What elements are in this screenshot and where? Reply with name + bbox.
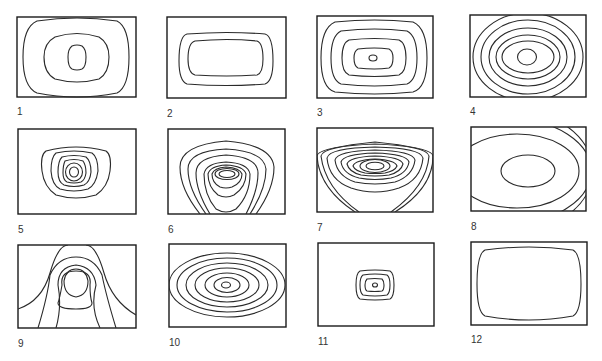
panel-label-10: 10 [169,337,180,348]
contour-plot-7 [317,128,434,213]
panel-label-11: 11 [318,336,328,347]
panel-label-5: 5 [18,224,24,235]
panel-label-3: 3 [317,107,323,118]
panel-label-7: 7 [317,222,323,233]
contour-plot-12 [471,242,588,326]
panel-4 [470,15,587,98]
panel-label-12: 12 [471,334,482,345]
contour-plot-10 [169,244,287,328]
contour-plot-1 [17,17,137,98]
panel-12 [471,242,588,326]
panel-label-9: 9 [18,338,24,349]
panel-label-8: 8 [471,221,477,232]
contour-plot-8 [471,127,587,212]
panel-5 [18,129,137,215]
panel-3 [317,16,434,99]
panel-1 [17,17,137,98]
panel-9 [18,245,137,329]
contour-plot-6 [168,129,286,215]
panel-label-2: 2 [167,108,173,119]
panel-10 [169,244,287,328]
panel-2 [167,17,287,99]
contour-plot-11 [318,243,435,327]
panel-label-4: 4 [470,106,476,117]
panel-11 [318,243,435,327]
contour-plot-3 [317,16,434,99]
contour-plot-5 [18,129,137,215]
panel-label-1: 1 [17,106,23,117]
panel-8 [471,127,587,212]
contour-plot-2 [167,17,287,99]
contour-plot-9 [18,245,137,329]
contour-plot-4 [470,15,587,98]
panel-6 [168,129,286,215]
panel-label-6: 6 [168,224,174,235]
panel-7 [317,128,434,213]
